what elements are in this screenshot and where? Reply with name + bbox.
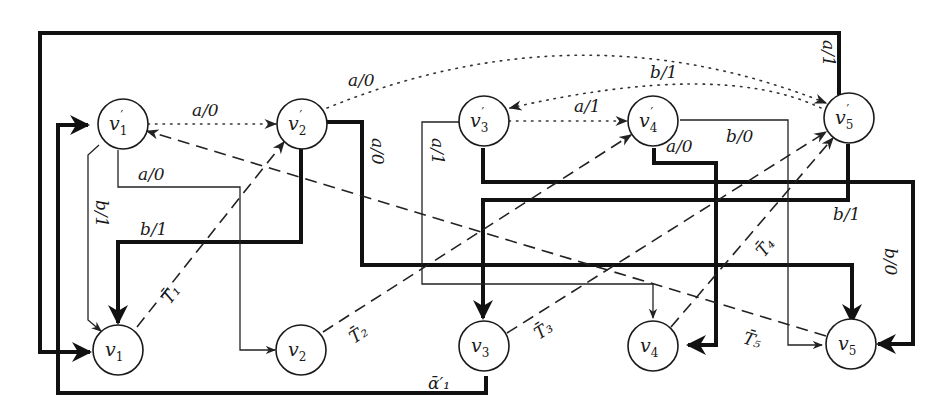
node-v4: v4 (628, 321, 678, 371)
node-v2-prime: v2′ (277, 99, 327, 149)
node-v5-prime: v5′ (824, 93, 874, 143)
label-v1p-v1: b/1 (92, 200, 112, 227)
label-T2: T̄₂ (345, 320, 372, 348)
edge-v5p-v3 (483, 144, 848, 318)
edge-v5p-v1 (40, 33, 839, 352)
node-v3-prime: v3′ (459, 96, 509, 146)
label-v1p-v2: a/0 (138, 164, 165, 184)
label-v2p-v1: b/1 (140, 219, 167, 239)
node-v1-prime: v1′ (98, 99, 148, 149)
node-v5: v5 (826, 319, 876, 369)
label-v5p-v3: b/1 (833, 204, 860, 224)
label-v5p-v3p: b/1 (650, 62, 677, 82)
edge-v1p-v1 (88, 145, 101, 331)
label-T5: T̄₅ (741, 327, 765, 353)
edge-v4p-v4 (654, 148, 716, 345)
label-v5p-v1: a/1 (819, 40, 839, 67)
label-v1p-v2p: a/0 (192, 100, 219, 120)
label-T4: T̄₄ (751, 233, 779, 261)
label-v2p-v5: a/0 (368, 138, 388, 165)
label-T1: T̄₁ (157, 280, 185, 307)
node-v2: v2 (276, 325, 326, 375)
edge-v3p-v4 (422, 122, 653, 318)
label-v3p-v4p: a/1 (574, 96, 601, 116)
label-v2p-v5p: a/0 (348, 70, 375, 90)
edge-T5-dashed (147, 131, 826, 336)
edge-T4-dashed (671, 138, 833, 327)
node-v3: v3 (459, 321, 509, 371)
label-v4p-v4: a/0 (666, 136, 693, 156)
state-graph: v1′ v2′ v3′ v4′ v5′ v1 v2 v3 v4 v5 a/0 a… (0, 0, 945, 417)
label-v3p-v5: b/0 (881, 248, 901, 276)
node-v1: v1 (93, 325, 143, 375)
edge-v2p-v5 (323, 122, 852, 322)
label-T3: T̄₃ (530, 316, 557, 344)
label-v3p-v4: a/1 (428, 138, 448, 165)
label-v4p-v5: b/0 (726, 126, 754, 146)
label-v3-v1p: ᾱ′₁ (428, 373, 450, 393)
